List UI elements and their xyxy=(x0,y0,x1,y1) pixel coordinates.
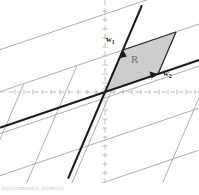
fundamental-domain-region xyxy=(105,32,176,92)
lattice-diagram: w1 w2 R fundamental domain xyxy=(0,0,199,195)
region-label: R xyxy=(131,54,138,65)
vector-label-w2: w2 xyxy=(163,70,172,79)
vector-label-w1-index: 1 xyxy=(112,39,115,45)
lattice-lines-shallow xyxy=(0,0,199,195)
vector-label-w1: w1 xyxy=(106,36,115,45)
diagram-canvas xyxy=(0,0,199,195)
axes xyxy=(0,0,199,183)
vector-label-w2-index: 2 xyxy=(169,73,172,79)
figure-caption: fundamental domain xyxy=(2,184,197,195)
